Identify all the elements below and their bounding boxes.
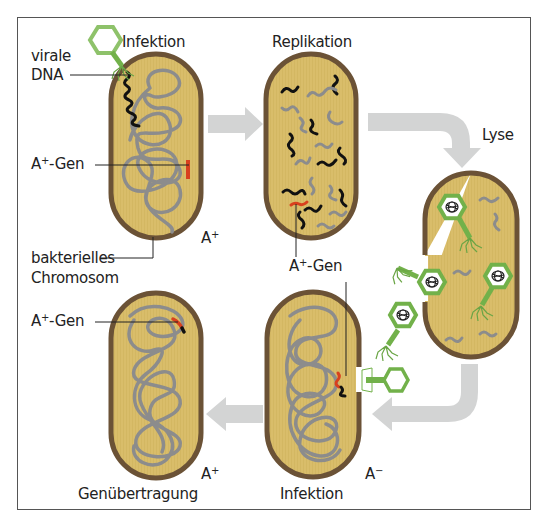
genotype-gene-transfer: A+	[201, 466, 219, 483]
cell-infection-1	[111, 54, 201, 238]
stage-title-infection-1: Infektion	[122, 34, 185, 51]
label-chromosome-2: Chromosom	[31, 270, 119, 287]
stage-title-infection-2: Infektion	[280, 486, 343, 503]
cell-gene-transfer	[111, 293, 201, 478]
stage-title-replication: Replikation	[272, 34, 352, 51]
label-gene-2: A+-Gen	[289, 258, 342, 275]
transduction-diagram: Infektion Replikation Lyse Infektion Gen…	[0, 0, 539, 524]
genotype-infection-1: A+	[201, 230, 219, 247]
a-plus-gene	[186, 160, 190, 179]
cell-lysis	[422, 173, 517, 357]
stage-title-gene-transfer: Genübertragung	[78, 486, 198, 503]
label-chromosome-1: bakterielles	[31, 250, 115, 267]
label-gene-3: A+-Gen	[31, 313, 84, 330]
label-viral-dna-2: DNA	[31, 67, 63, 84]
a-plus-gene-fragment	[291, 202, 307, 205]
label-gene-1: A+-Gen	[31, 156, 84, 173]
cell-infection-2	[267, 292, 364, 477]
stage-title-lysis: Lyse	[482, 127, 514, 144]
label-viral-dna-1: virale	[31, 48, 71, 65]
cell-replication	[266, 54, 356, 238]
genotype-infection-2: A−	[365, 466, 383, 483]
